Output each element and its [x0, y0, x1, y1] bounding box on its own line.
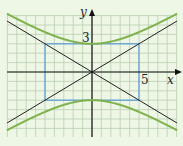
b-value-label: 3 [82, 31, 90, 45]
hyperbola-diagram [0, 0, 183, 146]
y-axis-label: y [80, 5, 87, 19]
x-axis-label: x [167, 73, 174, 87]
a-value-label: 5 [141, 73, 149, 87]
